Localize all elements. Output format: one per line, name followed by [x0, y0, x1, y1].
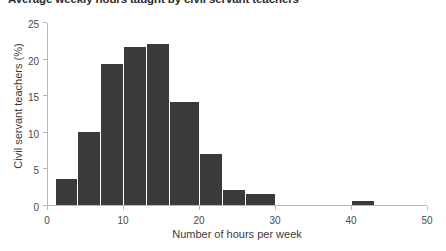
- x-tick: [199, 206, 200, 210]
- x-axis-title: Number of hours per week: [47, 228, 427, 240]
- bar: [100, 64, 123, 205]
- x-tick: [275, 206, 276, 210]
- chart-title: Average weekly hours taught by civil ser…: [8, 0, 438, 7]
- x-tick: [351, 206, 352, 210]
- bar: [169, 102, 199, 205]
- y-tick: [43, 132, 47, 133]
- bar: [55, 179, 78, 205]
- x-tick-label: 40: [336, 215, 366, 226]
- bar: [245, 194, 275, 205]
- bar: [77, 132, 100, 205]
- x-tick-label: 20: [184, 215, 214, 226]
- y-tick: [43, 205, 47, 206]
- y-tick: [43, 95, 47, 96]
- y-tick-label: 0: [17, 202, 39, 213]
- y-tick: [43, 168, 47, 169]
- bar: [199, 154, 222, 205]
- x-tick: [123, 206, 124, 210]
- x-tick: [47, 206, 48, 210]
- bar: [146, 44, 169, 205]
- x-tick: [427, 206, 428, 210]
- plot-area: 01020304050 0510152025: [47, 23, 427, 206]
- y-axis-title: Civil servant teachers (%): [12, 16, 24, 196]
- y-tick: [43, 22, 47, 23]
- y-tick: [43, 59, 47, 60]
- x-tick-label: 30: [260, 215, 290, 226]
- y-axis-line: [47, 23, 48, 206]
- x-axis-line: [47, 205, 427, 206]
- x-tick-label: 0: [32, 215, 62, 226]
- bar: [123, 47, 146, 205]
- histogram-figure: Average weekly hours taught by civil ser…: [0, 0, 446, 251]
- bar: [351, 201, 374, 205]
- bar: [222, 190, 245, 205]
- x-tick-label: 10: [108, 215, 138, 226]
- x-tick-label: 50: [412, 215, 442, 226]
